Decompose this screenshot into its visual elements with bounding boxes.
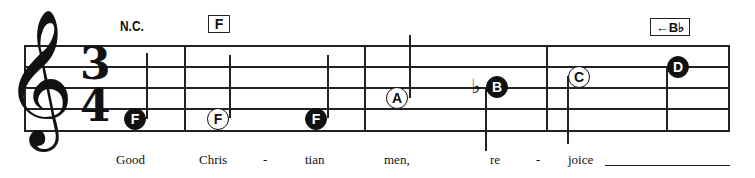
time-signature-top: 3 (80, 44, 111, 84)
lyric-hyphen: - (536, 152, 540, 168)
staff-line (24, 66, 730, 68)
lyric-syllable: re (490, 152, 500, 168)
note-bflat-quarter: B (486, 76, 508, 98)
note-stem (229, 55, 231, 118)
lyric-syllable: Chris (199, 152, 227, 168)
lyric-hyphen: - (263, 152, 267, 168)
barline (184, 45, 186, 131)
barline (364, 45, 366, 131)
note-f-half: F (124, 108, 146, 130)
lyric-syllable: joice (568, 152, 593, 168)
flat-icon: ♭ (471, 76, 480, 96)
barline-end (728, 45, 730, 131)
note-f-quarter: F (305, 108, 327, 130)
note-stem (146, 53, 148, 119)
note-stem (327, 55, 329, 118)
note-c-half: C (568, 66, 590, 88)
chord-symbol-bflat: ←B♭ (650, 18, 690, 36)
music-staff: 𝄞 3 4 N.C. F ←B♭ F F F A ♭ B C D Good Ch… (0, 0, 755, 178)
staff-line (24, 87, 730, 89)
note-stem (567, 76, 569, 144)
note-stem (485, 87, 487, 151)
time-signature-bottom: 4 (80, 86, 111, 126)
note-a-half: A (386, 87, 408, 109)
note-stem (666, 66, 668, 132)
staff-line (24, 130, 730, 132)
lyric-extender-line (605, 165, 730, 166)
lyric-syllable: Good (116, 152, 145, 168)
chord-symbol-f: F (208, 15, 230, 33)
staff-line (24, 45, 730, 47)
lyric-syllable: tian (305, 152, 325, 168)
note-stem (409, 35, 411, 98)
lyric-syllable: men, (384, 152, 410, 168)
note-f-half: F (207, 108, 229, 130)
note-d-quarter: D (667, 56, 689, 78)
chord-symbol-nc: N.C. (120, 18, 144, 34)
barline (546, 45, 548, 131)
treble-clef-icon: 𝄞 (4, 18, 74, 136)
